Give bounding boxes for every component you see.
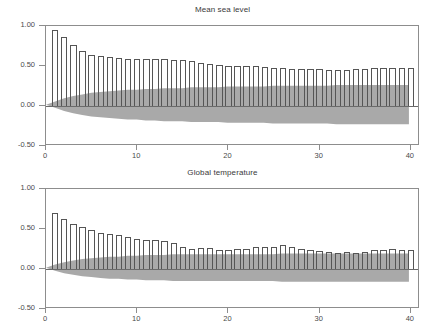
y-axis-tick: [39, 228, 45, 229]
y-axis-label: 0.00: [0, 263, 35, 272]
y-axis-label: 1.00: [0, 20, 35, 29]
x-axis-label: 10: [124, 151, 148, 160]
y-axis-tick: [39, 188, 45, 189]
x-axis-label: 30: [307, 314, 331, 323]
y-axis-tick: [39, 105, 45, 106]
x-axis-label: 10: [124, 314, 148, 323]
x-axis-label: 30: [307, 151, 331, 160]
x-axis-tick: [45, 308, 46, 313]
y-axis-tick: [39, 65, 45, 66]
x-axis-tick: [45, 145, 46, 150]
x-axis-tick: [410, 145, 411, 150]
y-axis-label: 1.00: [0, 183, 35, 192]
y-axis-label: 0.50: [0, 223, 35, 232]
y-axis-label: -0.50: [0, 303, 35, 312]
x-axis-label: 40: [398, 314, 422, 323]
x-axis-tick: [136, 145, 137, 150]
axis-layer: -0.500.000.501.00010203040: [0, 0, 445, 162]
x-axis-label: 0: [33, 314, 57, 323]
x-axis-tick: [136, 308, 137, 313]
x-axis-label: 20: [215, 314, 239, 323]
panel-global-temperature: Global temperature -0.500.000.501.000102…: [0, 163, 445, 325]
x-axis-label: 0: [33, 151, 57, 160]
x-axis-tick: [410, 308, 411, 313]
x-axis-label: 40: [398, 151, 422, 160]
x-axis-tick: [319, 145, 320, 150]
y-axis-tick: [39, 25, 45, 26]
x-axis-tick: [227, 308, 228, 313]
x-axis-label: 20: [215, 151, 239, 160]
panel-mean-sea-level: Mean sea level -0.500.000.501.0001020304…: [0, 0, 445, 162]
y-axis-label: 0.00: [0, 100, 35, 109]
y-axis-label: 0.50: [0, 60, 35, 69]
y-axis-tick: [39, 268, 45, 269]
acf-figure: Mean sea level -0.500.000.501.0001020304…: [0, 0, 445, 325]
x-axis-tick: [227, 145, 228, 150]
axis-layer: -0.500.000.501.00010203040: [0, 163, 445, 325]
x-axis-tick: [319, 308, 320, 313]
y-axis-label: -0.50: [0, 140, 35, 149]
